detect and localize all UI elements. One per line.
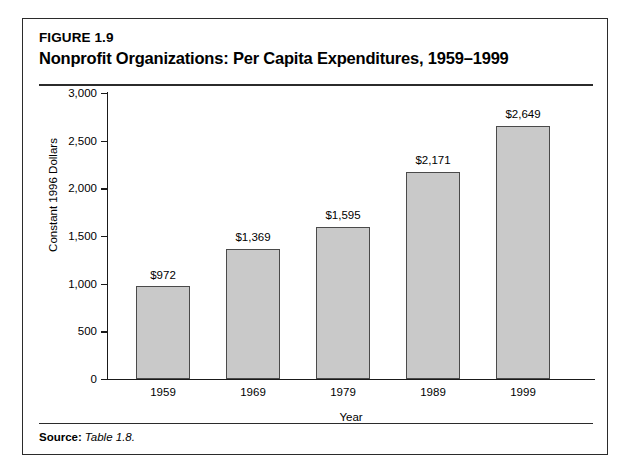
bar-1969[interactable]: [226, 249, 280, 380]
x-axis-line: [107, 379, 595, 380]
y-tick-6: [101, 93, 107, 94]
y-axis-label-1500: 1,500: [37, 231, 97, 242]
bar-value-1979: $1,595: [303, 209, 383, 221]
x-axis-label-1999: 1999: [483, 386, 563, 398]
bar-value-1959: $972: [123, 269, 203, 281]
source-label: Source:: [39, 431, 82, 443]
x-axis-label-1959: 1959: [123, 386, 203, 398]
x-axis-label-1989: 1989: [393, 386, 473, 398]
bar-chart: 0 500 1,000 1,500 2,000 2,500 3,000 Cons…: [23, 19, 609, 456]
bar-1989[interactable]: [406, 172, 460, 379]
bar-1959[interactable]: [136, 286, 190, 379]
source-note: Source:Table 1.8.: [39, 431, 135, 443]
x-axis-title: Year: [107, 411, 595, 423]
y-tick-4: [101, 188, 107, 189]
y-axis-label-0: 0: [37, 374, 97, 385]
x-axis-label-1969: 1969: [213, 386, 293, 398]
bar-1999[interactable]: [496, 126, 550, 379]
bar-value-1989: $2,171: [393, 154, 473, 166]
y-axis-label-2000: 2,000: [37, 183, 97, 194]
source-divider: [39, 423, 593, 424]
y-tick-2: [101, 284, 107, 285]
y-axis-label-1000: 1,000: [37, 279, 97, 290]
bar-value-1999: $2,649: [483, 108, 563, 120]
source-value: Table 1.8.: [85, 431, 135, 443]
y-axis-label-500: 500: [37, 326, 97, 337]
y-tick-5: [101, 141, 107, 142]
y-tick-0: [101, 379, 107, 380]
y-tick-1: [101, 331, 107, 332]
bar-value-1969: $1,369: [213, 231, 293, 243]
x-axis-label-1979: 1979: [303, 386, 383, 398]
y-axis-label-3000: 3,000: [37, 88, 97, 99]
bar-1979[interactable]: [316, 227, 370, 379]
y-axis-line: [107, 92, 108, 380]
figure-frame: FIGURE 1.9 Nonprofit Organizations: Per …: [22, 18, 608, 455]
y-tick-3: [101, 236, 107, 237]
y-axis-label-2500: 2,500: [37, 136, 97, 147]
y-axis-title: Constant 1996 Dollars: [47, 105, 59, 285]
